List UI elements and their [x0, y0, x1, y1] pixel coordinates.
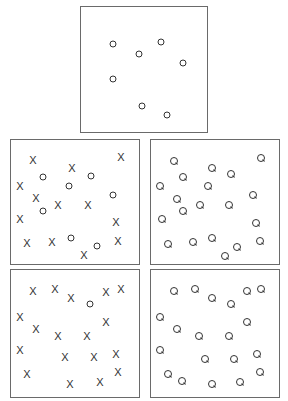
- x-glyph: X: [83, 331, 90, 342]
- x-glyph: X: [84, 200, 91, 211]
- q-glyph: [236, 378, 244, 386]
- q-glyph: [179, 173, 187, 181]
- q-glyph: [256, 368, 264, 376]
- x-glyph: X: [102, 287, 109, 298]
- x-glyph: X: [66, 379, 73, 390]
- x-glyph: X: [51, 284, 58, 295]
- q-glyph: [230, 355, 238, 363]
- x-glyph: X: [29, 155, 36, 166]
- circle-glyph: [110, 76, 117, 83]
- q-glyph: [243, 287, 251, 295]
- x-glyph: X: [54, 331, 61, 342]
- circle-glyph: [88, 173, 95, 180]
- circle-glyph: [94, 243, 101, 250]
- q-glyph: [249, 191, 257, 199]
- q-glyph: [252, 219, 260, 227]
- circle-glyph: [87, 301, 94, 308]
- q-glyph: [221, 252, 229, 260]
- x-glyph: X: [16, 181, 23, 192]
- q-glyph: [208, 294, 216, 302]
- q-glyph: [225, 201, 233, 209]
- circle-glyph: [110, 41, 117, 48]
- x-glyph: X: [16, 214, 23, 225]
- x-glyph: X: [117, 284, 124, 295]
- x-glyph: X: [114, 367, 121, 378]
- q-glyph: [173, 195, 181, 203]
- q-glyph: [195, 332, 203, 340]
- circle-glyph: [139, 103, 146, 110]
- q-glyph: [179, 207, 187, 215]
- x-glyph: X: [16, 345, 23, 356]
- q-glyph: [164, 370, 172, 378]
- q-glyph: [208, 234, 216, 242]
- q-glyph: [256, 237, 264, 245]
- x-glyph: X: [90, 352, 97, 363]
- x-glyph: X: [114, 236, 121, 247]
- circle-glyph: [164, 112, 171, 119]
- x-glyph: X: [68, 163, 75, 174]
- panel-top: [80, 6, 208, 133]
- q-glyph: [227, 170, 235, 178]
- q-glyph: [164, 240, 172, 248]
- circle-glyph: [66, 183, 73, 190]
- circle-glyph: [40, 208, 47, 215]
- q-glyph: [173, 325, 181, 333]
- x-glyph: X: [32, 324, 39, 335]
- q-glyph: [243, 318, 251, 326]
- q-glyph: [156, 313, 164, 321]
- q-glyph: [156, 182, 164, 190]
- x-glyph: X: [61, 352, 68, 363]
- q-glyph: [170, 157, 178, 165]
- q-glyph: [201, 355, 209, 363]
- x-glyph: X: [67, 293, 74, 304]
- circle-glyph: [180, 60, 187, 67]
- q-glyph: [156, 346, 164, 354]
- circle-glyph: [136, 51, 143, 58]
- x-glyph: X: [80, 250, 87, 261]
- x-glyph: X: [112, 349, 119, 360]
- q-glyph: [227, 300, 235, 308]
- q-glyph: [253, 350, 261, 358]
- circle-glyph: [158, 39, 165, 46]
- q-glyph: [178, 377, 186, 385]
- circle-glyph: [110, 192, 117, 199]
- circle-glyph: [68, 235, 75, 242]
- q-glyph: [233, 243, 241, 251]
- q-glyph: [208, 164, 216, 172]
- x-glyph: X: [16, 312, 23, 323]
- q-glyph: [191, 285, 199, 293]
- x-glyph: X: [112, 217, 119, 228]
- x-glyph: X: [117, 152, 124, 163]
- circle-glyph: [40, 174, 47, 181]
- q-glyph: [189, 238, 197, 246]
- x-glyph: X: [48, 237, 55, 248]
- q-glyph: [196, 201, 204, 209]
- x-glyph: X: [29, 286, 36, 297]
- q-glyph: [225, 332, 233, 340]
- q-glyph: [170, 287, 178, 295]
- q-glyph: [257, 154, 265, 162]
- x-glyph: X: [23, 238, 30, 249]
- q-glyph: [204, 182, 212, 190]
- x-glyph: X: [23, 369, 30, 380]
- x-glyph: X: [32, 193, 39, 204]
- x-glyph: X: [54, 200, 61, 211]
- x-glyph: X: [102, 317, 109, 328]
- q-glyph: [257, 285, 265, 293]
- x-glyph: X: [96, 377, 103, 388]
- q-glyph: [208, 380, 216, 388]
- q-glyph: [158, 215, 166, 223]
